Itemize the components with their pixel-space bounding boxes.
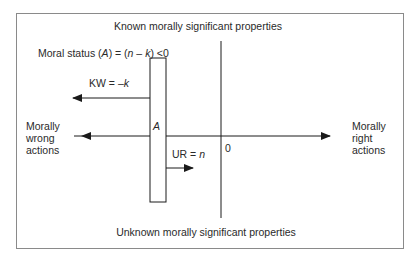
origin-label: 0 [225, 142, 231, 154]
unknown-properties-title: Unknown morally significant properties [116, 226, 296, 238]
ur-label: UR = n [172, 148, 205, 160]
known-properties-title: Known morally significant properties [114, 20, 282, 32]
ur-var: n [199, 148, 205, 160]
formula-suffix: ) <0 [150, 47, 168, 59]
kw-label: KW = –k [89, 77, 129, 89]
kw-var: k [124, 77, 129, 89]
left-label-line-1: Morally [26, 120, 76, 132]
bar-a-label: A [153, 120, 160, 132]
formula-var-a: A [102, 47, 109, 59]
morally-right-label: Morally right actions [352, 120, 402, 156]
formula-prefix: Moral status ( [38, 47, 102, 59]
kw-prefix: KW = – [89, 77, 124, 89]
right-label-line-1: Morally [352, 120, 402, 132]
formula-middle: ) = ( [109, 47, 128, 59]
formula-minus: – [133, 47, 145, 59]
moral-status-formula: Moral status (A) = (n – k) <0 [38, 47, 169, 59]
morally-wrong-label: Morally wrong actions [26, 120, 76, 156]
ur-prefix: UR = [172, 148, 199, 160]
left-label-line-3: actions [26, 144, 76, 156]
right-label-line-3: actions [352, 144, 402, 156]
right-label-line-2: right [352, 132, 402, 144]
left-label-line-2: wrong [26, 132, 76, 144]
